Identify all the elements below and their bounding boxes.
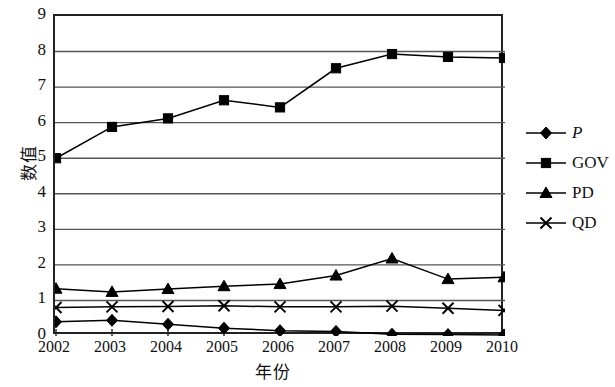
series-qd bbox=[55, 300, 505, 316]
marker-square bbox=[387, 49, 396, 58]
marker-diamond bbox=[443, 329, 454, 336]
y-tick-label: 8 bbox=[24, 43, 46, 57]
series-pd bbox=[55, 252, 505, 296]
legend-marker-diamond bbox=[524, 123, 568, 143]
x-tick-label: 2006 bbox=[250, 338, 306, 356]
marker-diamond bbox=[219, 322, 230, 334]
chart-legend: PGOVPDQD bbox=[524, 118, 612, 238]
x-tick-label: 2002 bbox=[26, 338, 82, 356]
marker-diamond bbox=[541, 127, 552, 139]
x-tick-label: 2009 bbox=[418, 338, 474, 356]
y-tick-label: 1 bbox=[24, 291, 46, 305]
legend-item-pd[interactable]: PD bbox=[524, 178, 612, 208]
y-tick-label: 2 bbox=[24, 256, 46, 270]
x-tick-label: 2004 bbox=[138, 338, 194, 356]
legend-item-gov[interactable]: GOV bbox=[524, 148, 612, 178]
legend-item-p[interactable]: P bbox=[524, 118, 612, 148]
marker-square bbox=[331, 64, 340, 73]
marker-triangle bbox=[498, 271, 505, 282]
legend-label: PD bbox=[568, 183, 594, 203]
marker-diamond bbox=[499, 329, 506, 336]
marker-square bbox=[443, 52, 452, 61]
legend-marker-cross bbox=[524, 213, 568, 233]
y-tick-label: 4 bbox=[24, 185, 46, 199]
marker-square bbox=[107, 122, 116, 131]
marker-diamond bbox=[107, 314, 118, 326]
legend-label: P bbox=[568, 123, 582, 143]
y-tick-label: 9 bbox=[24, 7, 46, 21]
y-axis-tick-labels: 0123456789 bbox=[22, 0, 46, 387]
marker-square bbox=[541, 158, 550, 167]
legend-label: GOV bbox=[568, 153, 609, 173]
series-gov bbox=[55, 49, 505, 162]
legend-marker-triangle bbox=[524, 183, 568, 203]
marker-triangle bbox=[55, 283, 62, 294]
marker-diamond bbox=[163, 318, 174, 330]
line-chart-figure: 数值 0123456789 20022003200420052006200720… bbox=[0, 0, 615, 387]
x-tick-label: 2007 bbox=[306, 338, 362, 356]
series-p bbox=[55, 314, 505, 336]
legend-marker-square bbox=[524, 153, 568, 173]
marker-diamond bbox=[387, 328, 398, 336]
y-tick-label: 6 bbox=[24, 114, 46, 128]
legend-item-qd[interactable]: QD bbox=[524, 208, 612, 238]
marker-square bbox=[163, 114, 172, 123]
marker-diamond bbox=[331, 325, 342, 336]
x-tick-label: 2005 bbox=[194, 338, 250, 356]
marker-triangle bbox=[386, 252, 398, 263]
marker-square bbox=[275, 103, 284, 112]
plot-area bbox=[53, 14, 503, 334]
x-tick-label: 2010 bbox=[474, 338, 530, 356]
y-tick-label: 7 bbox=[24, 78, 46, 92]
y-tick-label: 3 bbox=[24, 220, 46, 234]
x-tick-label: 2003 bbox=[82, 338, 138, 356]
marker-diamond bbox=[275, 325, 286, 336]
y-tick-label: 5 bbox=[24, 149, 46, 163]
marker-square bbox=[499, 53, 505, 62]
marker-diamond bbox=[55, 316, 62, 328]
marker-square bbox=[219, 96, 228, 105]
legend-label: QD bbox=[568, 213, 597, 233]
plot-canvas bbox=[55, 16, 505, 336]
x-tick-label: 2008 bbox=[362, 338, 418, 356]
marker-square bbox=[55, 154, 61, 163]
x-axis-title: 年份 bbox=[40, 358, 505, 383]
